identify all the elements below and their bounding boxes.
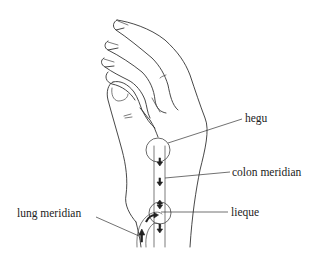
hand-meridian-diagram: hegu colon meridian lieque lung meridian [0, 0, 328, 261]
ring-nail [104, 59, 114, 62]
label-lung-meridian: lung meridian [17, 207, 81, 220]
down-arrow-icon [157, 158, 163, 166]
thumb-outline [107, 82, 136, 222]
index-finger-underside [116, 30, 178, 110]
down-arrow-icon [157, 224, 163, 233]
label-lieque: lieque [231, 206, 259, 219]
colon-meridian-leader [165, 172, 230, 178]
lung-flow-arrows [139, 213, 159, 243]
thumb-web [140, 108, 158, 137]
hegu-point-circle [146, 138, 170, 162]
thumb-crease-2 [125, 117, 132, 118]
down-arrow-icon [157, 178, 163, 186]
middle-nail [108, 42, 118, 45]
hegu-leader [168, 119, 242, 143]
down-arrow-icon [157, 200, 163, 209]
thumb-top [113, 81, 155, 128]
colon-flow-arrows [157, 158, 163, 233]
middle-fingertip [105, 41, 118, 50]
label-hegu: hegu [245, 112, 268, 125]
ring-fingertip [101, 58, 114, 67]
lung-meridian-leader [96, 217, 139, 236]
label-colon-meridian: colon meridian [232, 166, 302, 178]
palm-crease-2 [152, 98, 160, 112]
hand-back-outline [117, 20, 207, 247]
thumb-crease-1 [124, 114, 131, 116]
